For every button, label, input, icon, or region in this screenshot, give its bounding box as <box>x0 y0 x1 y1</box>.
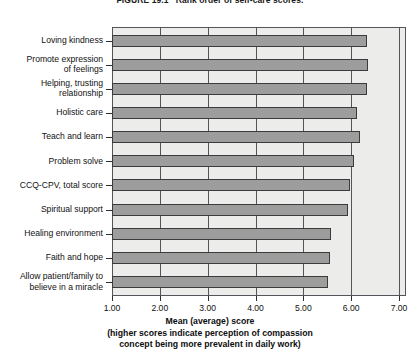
x-axis-title-line-1: Mean (average) score <box>0 316 420 328</box>
bar <box>112 276 328 288</box>
bar-row <box>112 150 406 174</box>
y-axis-label: Spiritual support <box>41 204 103 215</box>
x-axis-tick-label: 7.00 <box>379 303 419 313</box>
x-axis-tick-label: 6.00 <box>331 303 371 313</box>
y-axis-label: Problem solve <box>49 156 103 167</box>
y-axis-tick <box>106 185 112 186</box>
bar <box>112 155 354 167</box>
bar-row <box>112 246 406 270</box>
bar <box>112 179 350 191</box>
bar-row <box>112 198 406 222</box>
bar <box>112 252 330 264</box>
x-axis-tick-label: 1.00 <box>92 303 132 313</box>
y-axis-tick <box>106 161 112 162</box>
x-axis-tick <box>112 296 113 301</box>
y-axis-label: CCQ-CPV, total score <box>20 180 103 191</box>
bar <box>112 228 331 240</box>
bar-row <box>112 126 406 150</box>
bars-layer <box>112 27 406 296</box>
bar <box>112 204 348 216</box>
x-axis-tick-label: 2.00 <box>140 303 180 313</box>
x-axis-tick <box>160 296 161 301</box>
bar-row <box>112 53 406 77</box>
y-axis-label: Loving kindness <box>41 35 103 46</box>
bar-row <box>112 29 406 53</box>
y-axis-tick <box>106 137 112 138</box>
y-axis-label: Helping, trusting relationship <box>41 78 103 99</box>
x-axis-title: Mean (average) score (higher scores indi… <box>0 316 420 351</box>
x-axis-title-line-3: concept being more prevalent in daily wo… <box>0 339 420 351</box>
bar-row <box>112 174 406 198</box>
x-axis-tick-label: 3.00 <box>188 303 228 313</box>
bar-row <box>112 77 406 101</box>
bar <box>112 83 367 95</box>
y-axis-tick <box>106 65 112 66</box>
x-axis-tick <box>208 296 209 301</box>
y-axis-label: Teach and learn <box>42 131 103 142</box>
y-axis-label: Healing environment <box>24 228 103 239</box>
y-axis-tick <box>106 41 112 42</box>
y-axis-tick <box>106 258 112 259</box>
y-axis-label: Holistic care <box>56 107 103 118</box>
x-axis-tick <box>303 296 304 301</box>
y-axis-tick <box>106 113 112 114</box>
x-axis-tick <box>256 296 257 301</box>
y-axis-label: Promote expression of feelings <box>27 54 103 75</box>
x-axis-tick <box>399 296 400 301</box>
y-axis-tick <box>106 210 112 211</box>
y-axis-tick <box>106 234 112 235</box>
x-axis-tick-label: 5.00 <box>283 303 323 313</box>
x-axis-title-line-2: (higher scores indicate perception of co… <box>0 328 420 340</box>
y-axis-tick <box>106 89 112 90</box>
y-axis-label: Faith and hope <box>46 252 103 263</box>
y-axis-tick <box>106 282 112 283</box>
bar-chart: Loving kindnessPromote expression of fee… <box>0 0 420 356</box>
y-axis-label: Allow patient/family to believe in a mir… <box>20 271 103 292</box>
bar <box>112 59 368 71</box>
x-axis-tick <box>351 296 352 301</box>
bar <box>112 35 367 47</box>
x-axis-tick-label: 4.00 <box>236 303 276 313</box>
bar <box>112 107 357 119</box>
bar <box>112 131 360 143</box>
bar-row <box>112 101 406 125</box>
bar-row <box>112 271 406 295</box>
bar-row <box>112 222 406 246</box>
